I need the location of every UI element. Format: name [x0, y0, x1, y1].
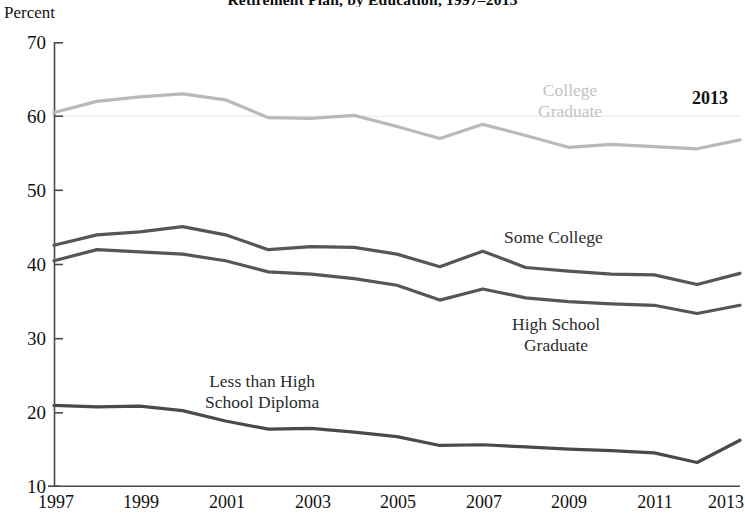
x-tick-2013: 2013	[708, 492, 744, 512]
series-label-high-school-graduate-line2: Graduate	[512, 335, 600, 356]
x-tick-2007: 2007	[466, 492, 502, 512]
year-callout-2013: 2013	[692, 88, 728, 109]
x-tick-2005: 2005	[380, 492, 416, 512]
series-label-high-school-graduate: High School Graduate	[512, 314, 600, 356]
line-chart: Retirement Plan, by Education, 1997–2013…	[0, 0, 745, 526]
series-lines	[54, 94, 740, 463]
axis-lines	[48, 42, 740, 487]
x-tick-2009: 2009	[551, 492, 587, 512]
series-label-college-graduate: College Graduate	[538, 80, 602, 122]
x-tick-2003: 2003	[295, 492, 331, 512]
series-line-some-college	[54, 227, 740, 285]
plot-svg	[54, 42, 740, 487]
series-line-less-than-high-school	[54, 405, 740, 462]
series-label-some-college: Some College	[504, 227, 603, 248]
series-line-college-graduate	[54, 94, 740, 149]
series-label-some-college-line1: Some College	[504, 227, 603, 248]
series-line-high-school-graduate	[54, 250, 740, 314]
x-tick-2001: 2001	[209, 492, 245, 512]
plot-area	[54, 42, 740, 487]
x-tick-1999: 1999	[123, 492, 159, 512]
series-label-less-than-high-school: Less than High School Diploma	[205, 371, 319, 413]
series-label-less-than-high-school-line1: Less than High	[205, 371, 319, 392]
series-label-less-than-high-school-line2: School Diploma	[205, 392, 319, 413]
series-label-college-graduate-line2: Graduate	[538, 101, 602, 122]
series-label-high-school-graduate-line1: High School	[512, 314, 600, 335]
series-label-college-graduate-line1: College	[538, 80, 602, 101]
x-tick-1997: 1997	[38, 492, 74, 512]
x-tick-2011: 2011	[637, 492, 672, 512]
